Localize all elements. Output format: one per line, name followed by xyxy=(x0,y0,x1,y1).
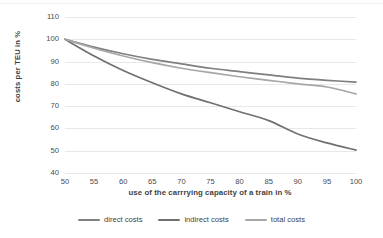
x-axis-tick-label: 60 xyxy=(110,178,136,186)
y-axis-tick-label: 100 xyxy=(33,35,59,43)
y-axis-title: costs per TEU in % xyxy=(13,12,22,122)
plot-area xyxy=(65,17,356,173)
chart-legend: direct costsindirect coststotal costs xyxy=(0,215,383,224)
gridline xyxy=(65,173,356,174)
x-axis-tick-label: 50 xyxy=(52,178,78,186)
y-axis-tick-label: 80 xyxy=(33,80,59,88)
y-axis-tick-label: 70 xyxy=(33,102,59,110)
x-axis-tick-label: 75 xyxy=(198,178,224,186)
series-line-direct-costs xyxy=(65,39,356,82)
x-axis-title: use of the carrrying capacity of a train… xyxy=(60,188,360,197)
chart-container: costs per TEU in % 405060708090100110 50… xyxy=(0,0,383,238)
series-line-indirect-costs xyxy=(65,39,356,150)
x-axis-tick-label: 100 xyxy=(343,178,369,186)
y-axis-tick-label: 110 xyxy=(33,13,59,21)
legend-item-total-costs[interactable]: total costs xyxy=(245,215,305,224)
x-axis-tick-label: 65 xyxy=(139,178,165,186)
x-axis-tick-label: 90 xyxy=(285,178,311,186)
top-divider xyxy=(0,3,383,4)
legend-label: total costs xyxy=(271,215,305,224)
legend-label: direct costs xyxy=(104,215,142,224)
legend-swatch-icon xyxy=(158,219,180,221)
y-axis-tick-label: 60 xyxy=(33,124,59,132)
y-axis-tick-label: 50 xyxy=(33,147,59,155)
legend-swatch-icon xyxy=(78,219,100,221)
y-axis-tick-label: 40 xyxy=(33,169,59,177)
legend-swatch-icon xyxy=(245,219,267,221)
x-axis-tick-label: 85 xyxy=(256,178,282,186)
x-axis-tick-label: 55 xyxy=(81,178,107,186)
legend-label: indirect costs xyxy=(184,215,228,224)
series-lines xyxy=(65,17,356,173)
x-axis-tick-label: 70 xyxy=(168,178,194,186)
x-axis-tick-label: 95 xyxy=(314,178,340,186)
legend-item-indirect-costs[interactable]: indirect costs xyxy=(158,215,228,224)
y-axis-tick-label: 90 xyxy=(33,58,59,66)
series-line-total-costs xyxy=(65,39,356,94)
legend-item-direct-costs[interactable]: direct costs xyxy=(78,215,142,224)
x-axis-tick-label: 80 xyxy=(227,178,253,186)
